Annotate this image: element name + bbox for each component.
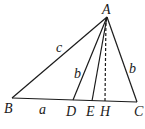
label-e: E <box>85 104 95 119</box>
triangle-diagram: A B D E H C c a b b <box>0 0 145 129</box>
label-h: H <box>99 104 111 119</box>
label-side-b-ad: b <box>74 66 81 81</box>
segment-bc <box>12 98 137 102</box>
label-c: C <box>134 104 144 119</box>
segment-ad <box>73 17 107 100</box>
segment-ac <box>107 17 137 102</box>
label-side-a: a <box>39 102 46 117</box>
label-a: A <box>101 2 111 17</box>
label-d: D <box>65 104 76 119</box>
label-side-c: c <box>56 40 63 55</box>
label-side-b-ac: b <box>129 61 136 76</box>
segment-ab <box>12 17 107 98</box>
label-b: B <box>4 101 13 116</box>
